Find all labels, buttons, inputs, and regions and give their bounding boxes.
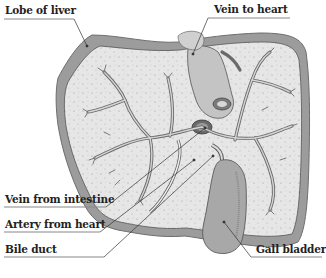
- label-lobe-of-liver: Lobe of liver: [5, 4, 76, 16]
- label-vein-from-intestine: Vein from intestine: [5, 193, 114, 205]
- label-gall-bladder: Gall bladder: [256, 243, 326, 255]
- liver-diagram: Lobe of liver Vein to heart Vein from in…: [0, 0, 326, 278]
- label-artery-from-heart: Artery from heart: [5, 218, 105, 230]
- label-bile-duct: Bile duct: [5, 243, 57, 255]
- label-vein-to-heart: Vein to heart: [214, 3, 288, 15]
- liver-illustration: [0, 0, 326, 278]
